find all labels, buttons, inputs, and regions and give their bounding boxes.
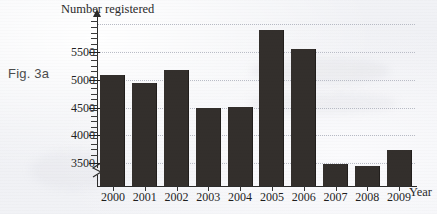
bar (387, 150, 412, 186)
bar (355, 166, 380, 186)
y-minor-tick (91, 110, 98, 111)
x-tick-label: 2007 (319, 190, 353, 205)
y-minor-tick (91, 66, 98, 67)
x-tick-label: 2005 (255, 190, 289, 205)
bar (132, 83, 157, 186)
y-major-tick (89, 108, 100, 109)
y-minor-tick (91, 121, 98, 122)
y-minor-tick (91, 21, 98, 22)
bar (100, 75, 125, 186)
y-minor-tick (91, 71, 98, 72)
bar (164, 70, 189, 186)
y-minor-tick (91, 38, 98, 39)
y-major-tick (89, 52, 100, 53)
x-tick-label: 2009 (382, 190, 416, 205)
bar (291, 49, 316, 186)
x-tick-label: 2008 (350, 190, 384, 205)
bar (196, 108, 221, 187)
y-minor-tick (91, 77, 98, 78)
y-minor-tick (91, 33, 98, 34)
y-axis-title: Number registered (61, 2, 154, 17)
x-tick-label: 2002 (160, 190, 194, 205)
y-major-tick (89, 135, 100, 136)
y-minor-tick (91, 44, 98, 45)
y-minor-tick (91, 127, 98, 128)
y-major-tick (89, 163, 100, 164)
bar (259, 30, 284, 186)
y-minor-tick (91, 60, 98, 61)
y-minor-tick (91, 83, 98, 84)
y-axis-tick-labels: 35004000450050005500 (57, 18, 95, 185)
y-minor-tick (91, 55, 98, 56)
y-minor-tick (91, 116, 98, 117)
y-axis-arrow-icon (93, 9, 101, 17)
x-tick-label: 2001 (128, 190, 162, 205)
y-minor-tick (91, 144, 98, 145)
x-tick-label: 2004 (223, 190, 257, 205)
y-minor-tick (91, 27, 98, 28)
bar-series (97, 18, 415, 186)
y-major-tick (89, 80, 100, 81)
x-tick-label: 2003 (191, 190, 225, 205)
y-minor-tick (91, 88, 98, 89)
y-minor-tick (91, 132, 98, 133)
y-minor-tick (91, 138, 98, 139)
y-minor-tick (91, 94, 98, 95)
x-tick-label: 2006 (287, 190, 321, 205)
bar (228, 107, 253, 186)
y-minor-tick (91, 155, 98, 156)
x-tick-label: 2000 (96, 190, 130, 205)
bar (323, 164, 348, 186)
y-minor-tick (91, 49, 98, 50)
y-minor-tick (91, 105, 98, 106)
y-minor-tick (91, 99, 98, 100)
figure-label: Fig. 3a (8, 66, 49, 81)
y-minor-tick (91, 149, 98, 150)
